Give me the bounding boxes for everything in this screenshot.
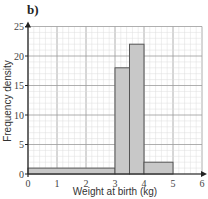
- histogram-bar: [144, 162, 173, 174]
- y-tick-label: 5: [19, 139, 24, 150]
- y-tick-label: 15: [14, 80, 24, 91]
- x-tick-label: 5: [171, 178, 176, 189]
- y-tick-label: 10: [14, 110, 24, 121]
- y-tick-label: 20: [14, 51, 24, 62]
- histogram-chart: 01234560510152025 Weight at birth (kg) F…: [0, 0, 208, 199]
- x-axis-arrow-icon: [201, 171, 207, 177]
- x-axis-label: Weight at birth (kg): [73, 186, 157, 197]
- histogram-bar: [130, 44, 145, 174]
- y-tick-label: 25: [14, 21, 24, 32]
- x-tick-label: 6: [200, 178, 205, 189]
- y-axis-label: Frequency density: [2, 60, 13, 142]
- y-tick-label: 0: [19, 169, 24, 180]
- x-tick-label: 1: [55, 178, 60, 189]
- histogram-bar: [115, 68, 130, 174]
- x-tick-label: 0: [26, 178, 31, 189]
- histogram-bar: [28, 168, 115, 174]
